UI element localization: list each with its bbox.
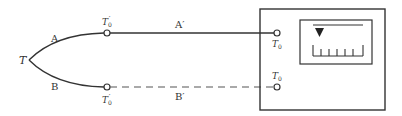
- hot-junction-label: T: [19, 54, 28, 67]
- reference-junction-bottom-label: T0′: [102, 93, 112, 106]
- meter-display: [300, 20, 372, 64]
- extension-wire-a-label: A′: [174, 19, 185, 30]
- instrument-box: [260, 9, 385, 110]
- thermocouple-diagram: T A B T0′ T0′ A′ B′ T0 T0: [0, 0, 402, 116]
- wire-a: [29, 33, 104, 60]
- instrument-terminal-bottom-label: T0: [272, 71, 282, 82]
- instrument-terminal-bottom: [274, 84, 280, 90]
- reference-junction-bottom: [104, 84, 110, 90]
- instrument-terminal-top-label: T0: [272, 39, 282, 50]
- instrument-terminal-top: [274, 30, 280, 36]
- reference-junction-top: [104, 30, 110, 36]
- wire-b: [29, 60, 104, 87]
- extension-wire-b-label: B′: [175, 91, 185, 102]
- meter-pointer-icon: [315, 28, 324, 37]
- meter-scale-ticks: [313, 45, 363, 56]
- wire-b-label: B: [51, 81, 58, 92]
- reference-junction-top-label: T0′: [102, 15, 112, 28]
- wire-a-label: A: [50, 33, 59, 44]
